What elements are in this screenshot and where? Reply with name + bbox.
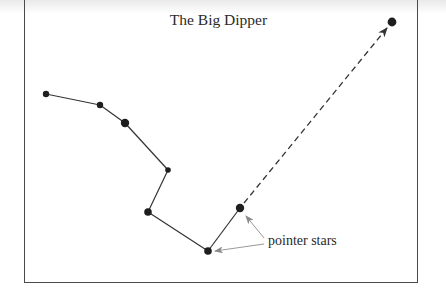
star-2	[97, 102, 103, 108]
line-6-7	[208, 208, 240, 251]
pointer-annotation-arrows	[215, 216, 264, 251]
pointer-arrow-lower	[215, 244, 264, 251]
star-7-pointer	[236, 204, 244, 212]
line-3-4	[125, 123, 168, 170]
big-dipper-diagram: The Big Dipper pointer stars	[0, 0, 446, 294]
pointer-stars-label: pointer stars	[268, 233, 337, 248]
line-2-3	[100, 105, 125, 123]
line-5-6	[148, 212, 208, 251]
polaris-star	[388, 18, 397, 27]
diagram-title: The Big Dipper	[170, 11, 268, 28]
star-4	[165, 167, 171, 173]
star-3	[121, 119, 129, 127]
dashed-arrow-to-polaris	[244, 28, 387, 203]
star-1	[43, 91, 49, 97]
line-1-2	[46, 94, 100, 105]
constellation-lines	[46, 94, 240, 251]
star-5	[144, 208, 152, 216]
stars	[43, 18, 397, 255]
pointer-arrow-upper	[246, 216, 264, 238]
star-6-pointer	[204, 247, 212, 255]
line-4-5	[148, 170, 168, 212]
